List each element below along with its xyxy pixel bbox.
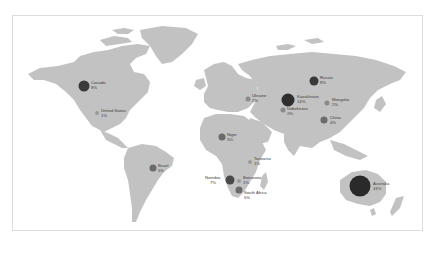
- svg-text:1%: 1%: [243, 180, 249, 185]
- land-south-america: [124, 144, 174, 222]
- land-masses: [28, 26, 406, 222]
- svg-text:5%: 5%: [227, 137, 233, 142]
- svg-text:2%: 2%: [332, 102, 338, 107]
- svg-text:8%: 8%: [320, 80, 326, 85]
- svg-text:5%: 5%: [244, 195, 250, 200]
- svg-text:1%: 1%: [101, 113, 107, 118]
- land-greenland: [140, 26, 198, 64]
- bubble-south-africa[interactable]: South Africa 5%: [236, 187, 268, 201]
- svg-text:1%: 1%: [254, 161, 260, 166]
- svg-text:33%: 33%: [373, 186, 382, 191]
- bubble-namibia[interactable]: Namibia 7%: [205, 175, 235, 185]
- svg-text:5%: 5%: [158, 168, 164, 173]
- svg-text:8%: 8%: [91, 85, 97, 90]
- svg-text:14%: 14%: [297, 99, 306, 104]
- svg-text:2%: 2%: [252, 98, 258, 103]
- world-map: Canada 8% United States 1% Brazil 5% Nig…: [0, 0, 436, 260]
- svg-text:4%: 4%: [330, 120, 336, 125]
- svg-text:2%: 2%: [287, 111, 293, 116]
- svg-text:7%: 7%: [210, 180, 216, 185]
